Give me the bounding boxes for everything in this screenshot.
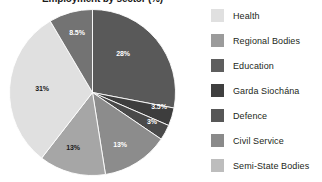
legend-item: Regional Bodies [211,28,322,53]
pie-slice-group [10,10,176,176]
legend-item: Education [211,53,322,78]
legend-item: Semi-State Bodies [211,153,322,178]
legend-swatch [211,134,224,147]
legend-swatch [211,9,224,22]
legend-item: Health [211,3,322,28]
legend-swatch [211,59,224,72]
pie-slice [93,10,176,109]
legend-swatch [211,109,224,122]
pie-chart-plot-area: Employment by sector (%) 28%3.5%3%13%13%… [0,0,205,182]
legend-swatch [211,34,224,47]
legend-label: Regional Bodies [233,36,300,46]
legend-swatch [211,84,224,97]
pie-graphic [9,9,176,176]
legend-item: Garda Siochána [211,78,322,103]
pie-svg [9,9,176,176]
pie-chart-figure: Employment by sector (%) 28%3.5%3%13%13%… [0,0,322,182]
legend-label: Civil Service [233,136,284,146]
legend-item: Defence [211,103,322,128]
legend-item: Civil Service [211,128,322,153]
legend-label: Garda Siochána [233,86,299,96]
chart-title: Employment by sector (%) [0,0,205,4]
legend-label: Defence [233,111,267,121]
legend-label: Education [233,61,274,71]
legend-label: Semi-State Bodies [233,161,309,171]
legend-swatch [211,159,224,172]
legend-label: Health [233,11,260,21]
chart-legend: HealthRegional BodiesEducationGarda Sioc… [205,0,322,182]
